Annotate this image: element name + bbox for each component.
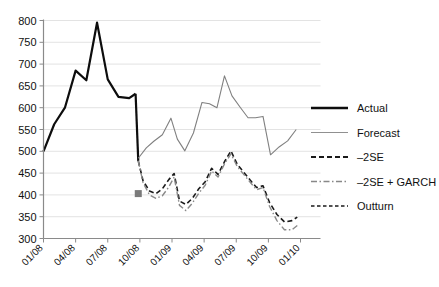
y-tick-label: 600 [18,102,36,114]
y-tick-label: 350 [18,211,36,223]
y-tick-label: 550 [18,124,36,136]
y-tick-label: 500 [18,145,36,157]
legend-label-2se-garch: –2SE + GARCH [357,176,436,188]
chart-container: 300350400450500550600650700750800 01/080… [0,0,439,287]
legend-label-forecast: Forecast [357,127,400,139]
y-tick-label: 650 [18,80,36,92]
legend-label-2se: –2SE [357,151,384,163]
line-chart: 300350400450500550600650700750800 01/080… [0,0,439,287]
y-tick-label: 400 [18,189,36,201]
y-tick-label: 800 [18,15,36,27]
y-tick-label: 750 [18,36,36,48]
y-tick-label: 300 [18,233,36,245]
y-tick-label: 700 [18,58,36,70]
anchor-marker [135,190,142,197]
legend-label-actual: Actual [357,102,388,114]
legend-label-outturn: Outturn [357,200,394,212]
y-tick-label: 450 [18,167,36,179]
anchor-marker-square [135,190,142,197]
chart-background [0,0,439,287]
